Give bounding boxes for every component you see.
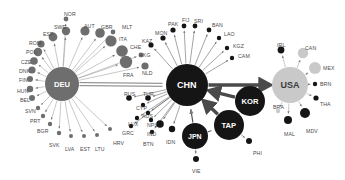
spoke-edge-CHN-LAO (199, 42, 216, 67)
network-diagram-figure: NORSWEESPAUTGBRMLTITACHEHKGFRANLDROMPOLC… (0, 0, 345, 180)
spoke-edge-DEU-FIN (35, 80, 44, 81)
node-MAL[interactable] (284, 116, 292, 124)
node-PRT[interactable] (41, 114, 45, 118)
node-CAN[interactable] (298, 48, 308, 58)
spoke-edge-DEU-ROM (44, 49, 54, 68)
spoke-edge-DEU-LVA (65, 101, 70, 131)
node-ROM[interactable] (37, 40, 44, 47)
node-EST[interactable] (82, 134, 86, 138)
spoke-edge-DEU-BEL (37, 91, 46, 95)
hub-TAP[interactable] (214, 110, 244, 140)
node-GBR[interactable] (95, 28, 105, 38)
node-MEX[interactable] (309, 62, 321, 74)
spoke-edge-CHN-RUS (134, 90, 166, 97)
hub-DEU[interactable] (45, 67, 79, 101)
spoke-edge-DEU-CZE (39, 65, 49, 73)
node-SVN[interactable] (36, 106, 40, 110)
node-FIJ[interactable] (182, 24, 187, 29)
node-PHI[interactable] (246, 138, 252, 144)
spoke-edge-CHN-IND (164, 103, 175, 119)
spoke-edge-TAP-PHI (241, 135, 245, 138)
node-AUS[interactable] (146, 111, 150, 115)
node-MLT[interactable] (111, 30, 116, 35)
node-MON[interactable] (160, 35, 165, 40)
node-ITA[interactable] (105, 35, 116, 46)
node-PAK[interactable] (170, 27, 175, 32)
node-CYP[interactable] (141, 103, 145, 107)
spoke-edge-DEU-DNK (37, 73, 46, 77)
spoke-edge-DEU-PRT (45, 99, 53, 112)
node-NLD[interactable] (141, 62, 148, 69)
spoke-edge-USA-MAL (288, 103, 289, 113)
node-GRC[interactable] (129, 124, 133, 128)
node-BEL[interactable] (29, 95, 35, 101)
spoke-edge-DEU-NLD (79, 67, 139, 80)
spoke-edge-USA-MDV (299, 101, 302, 106)
spoke-edge-DEU-EST (69, 100, 82, 132)
node-SVK[interactable] (57, 131, 61, 135)
node-SWE[interactable] (62, 27, 70, 35)
node-CHE[interactable] (116, 45, 128, 57)
major-edge-DEU-CHN (79, 83, 162, 87)
spoke-edge-DEU-HUN (36, 87, 45, 88)
network-svg (0, 0, 345, 180)
node-LTU[interactable] (95, 133, 99, 137)
spoke-edge-DEU-HRV (75, 96, 107, 126)
spoke-edge-USA-IRL (282, 56, 285, 67)
node-DNK[interactable] (28, 66, 35, 73)
major-edge-TAP-CHN (205, 102, 218, 114)
spoke-edge-DEU-AUT (69, 37, 82, 68)
spoke-edge-DEU-SVN (41, 96, 49, 104)
node-KGZ[interactable] (225, 46, 229, 50)
node-BRN[interactable] (313, 82, 317, 86)
node-BTN[interactable] (150, 130, 154, 134)
node-BAN[interactable] (207, 28, 212, 33)
node-LAO[interactable] (217, 36, 221, 40)
node-AUT[interactable] (80, 26, 89, 35)
node-THA[interactable] (313, 95, 318, 100)
spoke-edge-CHN-KGZ (203, 51, 224, 70)
spoke-edge-CHN-PAK (174, 35, 181, 64)
node-VIE[interactable] (193, 156, 199, 162)
major-edge-JPN-CHN (191, 109, 193, 122)
hub-USA[interactable] (272, 67, 308, 103)
node-CAM[interactable] (230, 56, 234, 60)
node-HRV[interactable] (108, 127, 112, 131)
spoke-edge-DEU-POL (42, 57, 52, 70)
node-LVA[interactable] (69, 134, 73, 138)
node-BGR[interactable] (48, 122, 52, 126)
node-IRL[interactable] (278, 47, 285, 54)
node-FIN[interactable] (27, 76, 33, 82)
spoke-edge-CHN-CAM (205, 60, 228, 74)
spoke-edge-CHN-FIJ (184, 31, 186, 64)
major-edge-KOR-CHN (211, 91, 235, 97)
spoke-edge-DEU-ESP (54, 44, 58, 67)
spoke-edge-DEU-GBR (72, 39, 95, 70)
node-TUR[interactable] (145, 95, 151, 101)
node-LUX[interactable] (135, 116, 139, 120)
node-ESP[interactable] (49, 33, 58, 42)
node-FRA[interactable] (120, 56, 132, 68)
node-IDN[interactable] (169, 126, 175, 132)
node-circles (27, 17, 321, 162)
hub-CHN[interactable] (166, 64, 208, 106)
spoke-edge-CHN-BAN (195, 34, 207, 65)
node-RUS[interactable] (126, 95, 132, 101)
node-NOR[interactable] (64, 17, 69, 22)
spoke-edge-USA-CAN (297, 60, 300, 68)
node-SRI[interactable] (193, 24, 198, 29)
node-NPL[interactable] (149, 118, 153, 122)
node-CZE[interactable] (30, 57, 38, 65)
node-KAZ[interactable] (148, 42, 153, 47)
spoke-edge-DEU-MLT (74, 35, 109, 71)
spoke-edge-DEU-SVK (59, 101, 61, 128)
node-BRA[interactable] (276, 109, 280, 113)
node-HUN[interactable] (27, 86, 33, 92)
hub-KOR[interactable] (235, 86, 265, 116)
node-POL[interactable] (34, 48, 42, 56)
node-MDV[interactable] (300, 108, 310, 118)
hub-JPN[interactable] (182, 123, 208, 149)
spoke-edge-CHN-SRI (190, 31, 194, 64)
node-IND[interactable] (156, 120, 164, 128)
node-HKG[interactable] (139, 53, 144, 58)
